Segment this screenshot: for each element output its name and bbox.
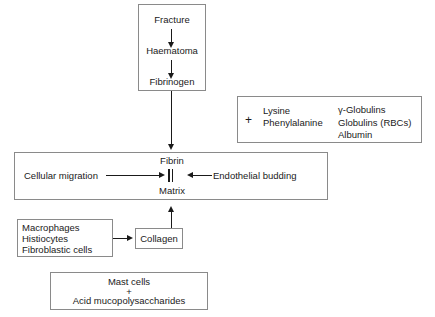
node-fracture: Fracture <box>138 14 206 26</box>
node-fibrinogen: Fibrinogen <box>138 76 206 88</box>
connector-haematoma-fibrinogen <box>171 60 172 74</box>
additive-globulins-rbcs: Globulins (RBCs) <box>338 117 411 129</box>
node-cellular-migration: Cellular migration <box>24 170 98 182</box>
arrowhead-collagen-matrix <box>168 206 174 212</box>
arrowhead-cells-collagen <box>127 235 133 241</box>
additive-gamma-globulins: γ-Globulins <box>338 104 386 116</box>
additive-albumin: Albumin <box>338 129 372 141</box>
node-endothelial-budding: Endothelial budding <box>213 170 296 182</box>
cells-fibroblastic: Fibroblastic cells <box>22 244 92 256</box>
node-matrix: Matrix <box>140 185 204 197</box>
node-haematoma: Haematoma <box>138 45 206 57</box>
fibrin-matrix-junction-bars <box>168 169 173 182</box>
connector-fracture-haematoma <box>171 29 172 43</box>
node-fibrin: Fibrin <box>140 155 204 167</box>
arrowhead-fibrinogen-fibrin <box>168 144 174 150</box>
connector-fibrinogen-fibrin <box>171 91 172 145</box>
arrowhead-cellular-migration <box>159 172 165 178</box>
connector-endothelial-budding <box>193 175 212 176</box>
connector-cellular-migration <box>106 175 160 176</box>
diagram-canvas: Fracture Haematoma Fibrinogen + Lysine P… <box>0 0 435 317</box>
mast-cells-mucopolysaccharides: Acid mucopolysaccharides <box>50 295 208 307</box>
additive-lysine: Lysine <box>263 105 290 117</box>
additives-plus-sign: + <box>245 114 252 126</box>
arrowhead-endothelial-budding <box>187 172 193 178</box>
connector-cells-collagen <box>113 238 128 239</box>
node-collagen: Collagen <box>135 233 183 245</box>
connector-collagen-matrix <box>171 212 172 228</box>
additive-phenylalanine: Phenylalanine <box>263 117 323 129</box>
